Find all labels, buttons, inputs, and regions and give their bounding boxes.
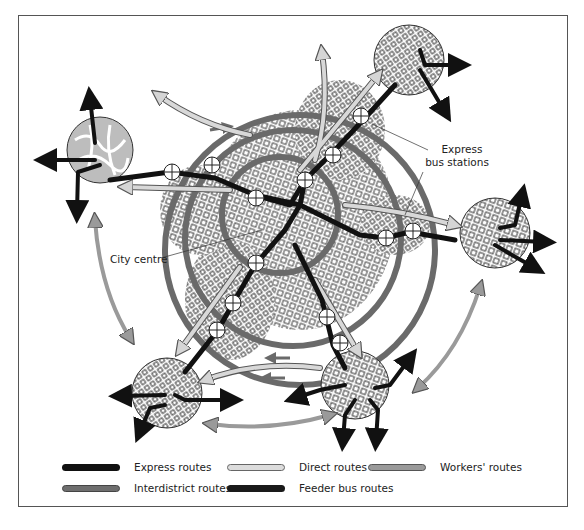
express-stations-label-2: bus stations bbox=[417, 156, 497, 169]
legend-item-interdistrict: Interdistrict routes bbox=[62, 481, 231, 495]
legend-item-direct: Direct routes bbox=[227, 460, 367, 474]
interdistrict-swatch bbox=[62, 485, 120, 492]
station bbox=[353, 108, 369, 124]
legend-label: Workers' routes bbox=[440, 461, 522, 473]
station bbox=[319, 309, 335, 325]
city-centre-label: City centre bbox=[110, 253, 167, 266]
legend-item-workers: Workers' routes bbox=[368, 460, 522, 474]
legend-label: Direct routes bbox=[299, 461, 367, 473]
station bbox=[248, 255, 264, 271]
express-stations-label-1: Express bbox=[427, 143, 497, 156]
legend-label: Express routes bbox=[134, 461, 212, 473]
district-north-east bbox=[374, 25, 444, 95]
station bbox=[325, 147, 341, 163]
station bbox=[378, 230, 394, 246]
station bbox=[204, 157, 220, 173]
legend-item-feeder: Feeder bus routes bbox=[227, 481, 394, 495]
station bbox=[225, 295, 241, 311]
feeder-swatch bbox=[227, 485, 285, 492]
legend-label: Interdistrict routes bbox=[134, 482, 231, 494]
workers-swatch bbox=[368, 464, 426, 471]
direct-swatch bbox=[227, 464, 285, 471]
legend-label: Feeder bus routes bbox=[299, 482, 394, 494]
station bbox=[248, 190, 264, 206]
district-south-west bbox=[132, 358, 202, 428]
legend-item-express: Express routes bbox=[62, 460, 212, 474]
bus-network-diagram bbox=[0, 0, 584, 530]
station bbox=[164, 164, 180, 180]
station bbox=[405, 223, 421, 239]
express-swatch bbox=[62, 464, 120, 471]
station bbox=[332, 335, 348, 351]
station bbox=[209, 322, 225, 338]
station bbox=[297, 172, 313, 188]
